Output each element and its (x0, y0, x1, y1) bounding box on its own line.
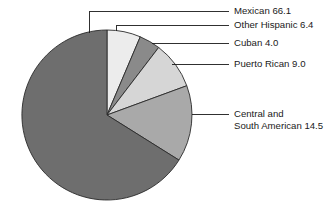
callout-label-other-hispanic: Other Hispanic 6.4 (234, 19, 314, 30)
callout-label-puerto-rican: Puerto Rican 9.0 (234, 58, 305, 69)
callout-label-cuban: Cuban 4.0 (234, 37, 278, 48)
pie-chart-figure: Mexican 66.1 Other Hispanic 6.4 Cuban 4.… (0, 0, 325, 212)
pie-wedge-group (22, 30, 192, 200)
callout-label-mexican: Mexican 66.1 (234, 5, 291, 16)
callout-label-central-and-south-american-line2: South American 14.5 (234, 120, 323, 131)
callout-label-central-and-south-american-line1: Central and (234, 108, 284, 119)
pie-chart-svg: Mexican 66.1 Other Hispanic 6.4 Cuban 4.… (0, 0, 325, 212)
